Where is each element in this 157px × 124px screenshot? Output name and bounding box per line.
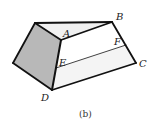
frustum-diagram: A B F E C D (b) — [0, 0, 157, 124]
label-a: A — [62, 28, 70, 39]
label-d: D — [40, 92, 49, 103]
label-c: C — [139, 58, 147, 69]
label-e: E — [58, 57, 67, 68]
label-b: B — [115, 11, 123, 22]
label-f: F — [113, 36, 122, 47]
figure-caption: (b) — [79, 109, 92, 119]
edge-top-back — [35, 22, 112, 23]
